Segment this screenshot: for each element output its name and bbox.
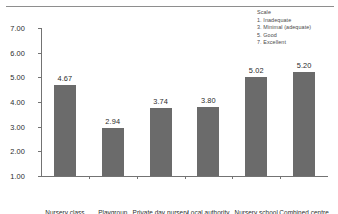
y-axis-label: 2.00	[0, 147, 25, 156]
y-axis-label: 4.00	[0, 98, 25, 107]
bar-value-label: 5.02	[236, 66, 276, 75]
bar-value-label: 5.20	[284, 61, 324, 70]
y-axis-tick	[38, 77, 41, 78]
legend-title: Scale	[257, 9, 337, 17]
bar-chart: Scale 1. Inadequate 3. Minimal (adequate…	[0, 0, 338, 214]
bar-value-label: 4.67	[45, 74, 85, 83]
x-axis-tick	[137, 176, 138, 179]
x-axis-tick	[89, 176, 90, 179]
bar	[245, 77, 267, 176]
bar	[54, 85, 76, 176]
legend-item-inadequate: 1. Inadequate	[257, 17, 337, 25]
bar-value-label: 2.94	[93, 117, 133, 126]
y-axis-label: 6.00	[0, 49, 25, 58]
y-axis-tick	[38, 102, 41, 103]
y-axis-label: 3.00	[0, 123, 25, 132]
bar	[293, 72, 315, 176]
x-axis-tick	[232, 176, 233, 179]
y-axis-tick	[38, 53, 41, 54]
bar	[102, 128, 124, 176]
x-axis-tick	[185, 176, 186, 179]
bar	[197, 107, 219, 176]
y-axis-tick	[38, 176, 41, 177]
bar-value-label: 3.80	[188, 96, 228, 105]
y-axis-tick	[38, 127, 41, 128]
y-axis-label: 1.00	[0, 172, 25, 181]
plot-area: 1.002.003.004.005.006.007.004.67Nursery …	[41, 28, 328, 176]
bar-value-label: 3.74	[141, 97, 181, 106]
top-divider	[6, 6, 334, 7]
y-axis-label: 7.00	[0, 24, 25, 33]
x-axis-tick	[280, 176, 281, 179]
y-axis-line	[41, 28, 42, 176]
y-axis-label: 5.00	[0, 73, 25, 82]
y-axis-tick	[38, 151, 41, 152]
x-axis-category-label: Combined centre	[276, 209, 332, 214]
y-axis-tick	[38, 28, 41, 29]
bar	[150, 108, 172, 176]
